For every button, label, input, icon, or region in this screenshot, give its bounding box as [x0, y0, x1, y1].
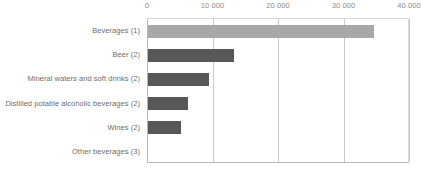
- x-axis-tick-labels: 010 00020 00030 00040 000: [0, 0, 421, 16]
- gridline-20000: [278, 19, 279, 162]
- bar-3: [148, 97, 188, 110]
- gridline-40000: [409, 19, 410, 162]
- x-tick-label-30000: 30 000: [332, 1, 356, 10]
- bar-1: [148, 49, 234, 62]
- bar-chart: 010 00020 00030 00040 000 Beverages (1)B…: [0, 0, 421, 174]
- x-tick-label-20000: 20 000: [266, 1, 290, 10]
- plot-area: [147, 18, 409, 163]
- x-tick-label-0: 0: [145, 1, 149, 10]
- category-label-5: Other beverages (3): [72, 146, 140, 155]
- gridline-10000: [213, 19, 214, 162]
- category-axis-labels: Beverages (1)Beer (2)Mineral waters and …: [0, 18, 144, 163]
- category-label-0: Beverages (1): [92, 26, 140, 35]
- bar-2: [148, 73, 209, 86]
- category-label-1: Beer (2): [113, 50, 141, 59]
- bar-0: [148, 25, 374, 38]
- gridline-30000: [344, 19, 345, 162]
- bar-4: [148, 121, 181, 134]
- x-tick-label-10000: 10 000: [201, 1, 225, 10]
- category-label-4: Wines (2): [107, 122, 140, 131]
- category-label-2: Mineral waters and soft drinks (2): [27, 74, 140, 83]
- x-tick-label-40000: 40 000: [397, 1, 421, 10]
- category-label-3: Distilled potable alcoholic beverages (2…: [5, 98, 140, 107]
